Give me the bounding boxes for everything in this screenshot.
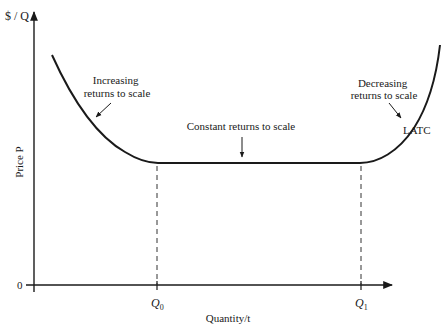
decreasing-returns-label: Decreasing returns to scale <box>351 77 418 101</box>
y-axis-label: Price P <box>13 146 25 177</box>
x-axis-label: Quantity/t <box>206 312 251 324</box>
q1-label: Q1 <box>355 296 368 312</box>
constant-returns-label: Constant returns to scale <box>187 120 296 132</box>
latc-label: LATC <box>403 124 431 136</box>
origin-label: 0 <box>17 279 23 291</box>
y-unit-label: $ / Q <box>5 9 29 23</box>
decreasing-arrow <box>389 103 401 118</box>
increasing-arrow <box>96 103 111 117</box>
increasing-returns-label: Increasing returns to scale <box>84 74 151 99</box>
latc-chart: $ / Q Price P 0 Quantity/t Q0 Q1 Increas… <box>0 0 447 330</box>
q0-label: Q0 <box>151 296 164 312</box>
